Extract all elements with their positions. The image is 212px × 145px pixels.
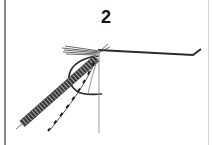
- fly-tying-illustration: [0, 0, 212, 145]
